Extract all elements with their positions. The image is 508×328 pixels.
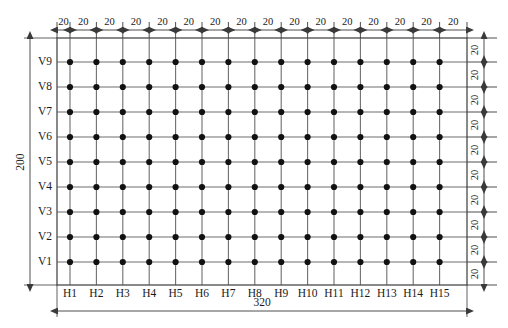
measurement-point <box>410 84 416 90</box>
measurement-point <box>410 184 416 190</box>
measurement-point <box>410 209 416 215</box>
right-dimension-label: 20 <box>470 219 481 230</box>
top-dimension-label: 20 <box>448 17 459 28</box>
measurement-point <box>225 134 231 140</box>
measurement-point <box>384 259 390 265</box>
measurement-point <box>252 209 258 215</box>
measurement-point <box>252 234 258 240</box>
measurement-point <box>384 159 390 165</box>
right-dimension-label: 20 <box>470 169 481 180</box>
row-label-v4: V4 <box>38 181 52 193</box>
measurement-point <box>437 234 443 240</box>
measurement-point <box>67 134 73 140</box>
measurement-point <box>93 159 99 165</box>
column-label-h12: H12 <box>350 288 370 300</box>
measurement-point <box>357 184 363 190</box>
measurement-point <box>252 184 258 190</box>
measurement-point <box>225 59 231 65</box>
measurement-point <box>252 109 258 115</box>
measurement-point <box>278 159 284 165</box>
column-label-h10: H10 <box>298 288 318 300</box>
measurement-point <box>252 59 258 65</box>
measurement-point <box>173 209 179 215</box>
top-dimension-label: 20 <box>104 17 115 28</box>
measurement-point <box>410 134 416 140</box>
measurement-point <box>225 159 231 165</box>
measurement-point <box>357 259 363 265</box>
row-label-v5: V5 <box>38 156 52 168</box>
measurement-point <box>252 134 258 140</box>
top-dimension-label: 20 <box>289 17 300 28</box>
top-dimension-label: 20 <box>210 17 221 28</box>
measurement-point <box>67 159 73 165</box>
right-dimension-label: 20 <box>470 244 481 255</box>
column-label-h4: H4 <box>142 288 156 300</box>
measurement-point <box>384 209 390 215</box>
measurement-point <box>437 84 443 90</box>
measurement-point <box>305 159 311 165</box>
right-dimension-label: 20 <box>470 268 481 279</box>
row-label-v8: V8 <box>38 81 52 93</box>
measurement-point <box>173 259 179 265</box>
measurement-point <box>93 84 99 90</box>
top-dimension-label: 20 <box>58 17 69 28</box>
column-label-h3: H3 <box>116 288 130 300</box>
right-dimension-label: 20 <box>470 144 481 155</box>
measurement-point <box>437 59 443 65</box>
measurement-point <box>384 84 390 90</box>
measurement-point <box>437 184 443 190</box>
measurement-point <box>93 109 99 115</box>
measurement-point <box>120 159 126 165</box>
measurement-point <box>199 84 205 90</box>
measurement-point <box>331 159 337 165</box>
measurement-point <box>437 159 443 165</box>
measurement-point <box>199 259 205 265</box>
right-dimension-label: 20 <box>470 194 481 205</box>
measurement-point <box>146 134 152 140</box>
measurement-point <box>173 84 179 90</box>
measurement-point <box>199 134 205 140</box>
row-label-v9: V9 <box>38 56 52 68</box>
measurement-point <box>146 184 152 190</box>
measurement-point <box>357 59 363 65</box>
measurement-point <box>437 134 443 140</box>
measurement-point <box>410 109 416 115</box>
measurement-point <box>305 84 311 90</box>
column-label-h14: H14 <box>403 288 423 300</box>
top-dimension-label: 20 <box>421 17 432 28</box>
measurement-point <box>225 234 231 240</box>
column-label-h15: H15 <box>430 288 450 300</box>
measurement-point <box>278 209 284 215</box>
measurement-point <box>305 259 311 265</box>
top-dimension-label: 20 <box>157 17 168 28</box>
top-dimension-label: 20 <box>342 17 353 28</box>
measurement-point <box>357 159 363 165</box>
measurement-point <box>199 59 205 65</box>
measurement-point <box>120 134 126 140</box>
row-label-v2: V2 <box>38 231 52 243</box>
measurement-point <box>120 259 126 265</box>
measurement-point <box>93 209 99 215</box>
top-dimension-label: 20 <box>368 17 379 28</box>
measurement-point <box>120 59 126 65</box>
grid-lines <box>57 38 467 285</box>
measurement-point <box>278 109 284 115</box>
measurement-point <box>305 59 311 65</box>
measurement-point <box>146 259 152 265</box>
grid-measurement-points <box>67 59 443 265</box>
measurement-point <box>410 59 416 65</box>
column-label-h13: H13 <box>377 288 397 300</box>
measurement-point <box>146 159 152 165</box>
top-dimension-label: 20 <box>131 17 142 28</box>
measurement-point <box>199 109 205 115</box>
measurement-point <box>437 109 443 115</box>
top-dimension-label: 20 <box>263 17 274 28</box>
measurement-point <box>331 234 337 240</box>
measurement-point <box>225 109 231 115</box>
measurement-point <box>120 184 126 190</box>
measurement-point <box>120 234 126 240</box>
measurement-point <box>146 59 152 65</box>
measurement-point <box>305 209 311 215</box>
measurement-point <box>278 184 284 190</box>
measurement-point <box>225 259 231 265</box>
